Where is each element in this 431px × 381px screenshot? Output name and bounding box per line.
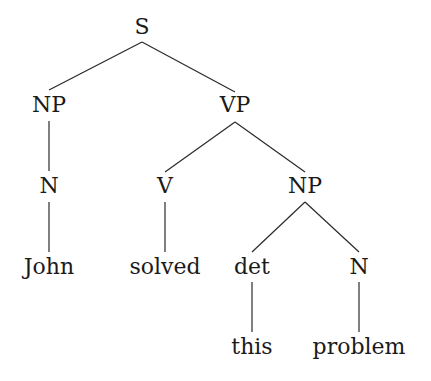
node-s: S: [134, 14, 149, 39]
node-this: this: [231, 334, 272, 359]
edge-s-np1: [49, 42, 142, 90]
edge-vp-np2: [235, 122, 305, 172]
edge-vp-v: [165, 122, 235, 172]
node-n1: N: [39, 173, 58, 198]
syntax-tree: SNPVPNVNPJohnsolveddetNthisproblem: [0, 0, 431, 381]
edge-np2-n2: [305, 202, 359, 252]
edge-np2-det: [252, 202, 305, 252]
tree-nodes: SNPVPNVNPJohnsolveddetNthisproblem: [22, 14, 406, 359]
node-john: John: [22, 254, 74, 279]
node-np1: NP: [32, 92, 66, 117]
node-np2: NP: [288, 173, 322, 198]
node-problem: problem: [313, 334, 406, 359]
node-det: det: [234, 254, 270, 279]
node-n2: N: [349, 254, 368, 279]
node-solved: solved: [129, 254, 200, 279]
node-v: V: [156, 173, 174, 198]
edge-s-vp: [142, 42, 235, 92]
node-vp: VP: [219, 92, 251, 117]
